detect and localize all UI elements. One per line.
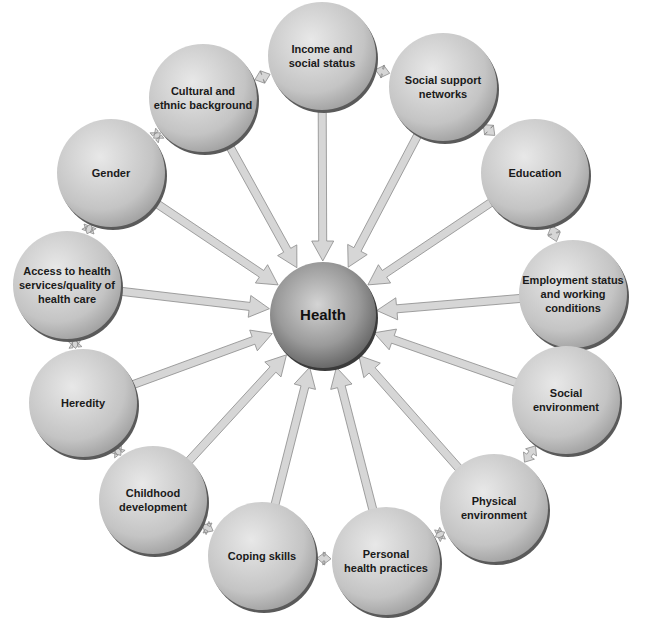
node-physical-environment: Physicalenvironment	[440, 454, 550, 565]
node-label: services/quality of	[19, 279, 115, 291]
arrow-employment-to-health	[377, 294, 524, 320]
node-circle	[99, 446, 207, 554]
node-gender: Gender	[57, 119, 167, 230]
node-label: Heredity	[61, 397, 106, 409]
node-label: Personal	[363, 548, 409, 560]
arrow-income-to-health	[312, 106, 334, 261]
node-circle	[389, 33, 497, 141]
node-social-support: Social supportnetworks	[389, 33, 499, 144]
arrow-heredity-to-health	[129, 330, 273, 389]
node-coping-skills: Coping skills	[208, 502, 318, 613]
arrow-social-support-to-health	[348, 129, 424, 267]
node-label: Childhood	[126, 487, 180, 499]
arrow-cultural-to-health	[224, 140, 297, 268]
node-label: Cultural and	[171, 85, 235, 97]
node-employment: Employment statusand workingconditions	[519, 240, 629, 351]
arrow-personal-health-to-health	[331, 367, 378, 513]
node-label: Social support	[405, 74, 482, 86]
arrow-physical-environment-to-health	[359, 355, 464, 473]
node-label: Coping skills	[228, 550, 296, 562]
node-label: Social	[550, 387, 582, 399]
node-access: Access to healthservices/quality ofhealt…	[13, 231, 123, 342]
link-cultural-income	[255, 71, 270, 83]
link-personal-health-coping-skills	[317, 552, 331, 565]
node-heredity: Heredity	[29, 349, 139, 460]
link-income-social-support	[375, 65, 389, 78]
node-label: environment	[461, 509, 527, 521]
node-label: Education	[508, 167, 561, 179]
link-social-environment-physical-environment	[524, 446, 537, 462]
arrow-childhood-to-health	[184, 355, 287, 466]
center-label: Health	[300, 306, 346, 323]
node-label: Gender	[92, 167, 131, 179]
determinants-of-health-diagram: Income andsocial statusSocial supportnet…	[0, 0, 645, 623]
node-label: networks	[419, 88, 467, 100]
node-label: Access to health	[23, 265, 111, 277]
node-label: environment	[533, 401, 599, 413]
node-personal-health: Personalhealth practices	[332, 507, 442, 618]
node-label: Employment status	[522, 274, 623, 286]
node-label: ethnic background	[154, 99, 252, 111]
node-cultural: Cultural andethnic background	[149, 44, 259, 155]
node-label: Income and	[291, 43, 352, 55]
arrow-education-to-health	[368, 198, 496, 285]
node-label: health care	[38, 293, 96, 305]
node-social-environment: Socialenvironment	[512, 346, 622, 457]
arrow-coping-skills-to-health	[270, 367, 315, 508]
node-label: and working	[541, 288, 606, 300]
arrow-access-to-health	[116, 287, 269, 318]
node-circle	[268, 2, 376, 110]
node-label: health practices	[344, 562, 428, 574]
node-label: social status	[289, 57, 356, 69]
link-physical-environment-personal-health	[435, 527, 446, 541]
arrow-social-environment-to-health	[374, 329, 520, 387]
node-circle	[149, 44, 257, 152]
arrow-gender-to-health	[150, 198, 278, 285]
node-circle	[512, 346, 620, 454]
node-label: Physical	[472, 495, 517, 507]
node-education: Education	[481, 119, 591, 230]
node-label: development	[119, 501, 187, 513]
node-income: Income andsocial status	[268, 2, 378, 113]
node-circle	[332, 507, 440, 615]
node-label: conditions	[545, 302, 601, 314]
node-circle	[440, 454, 548, 562]
